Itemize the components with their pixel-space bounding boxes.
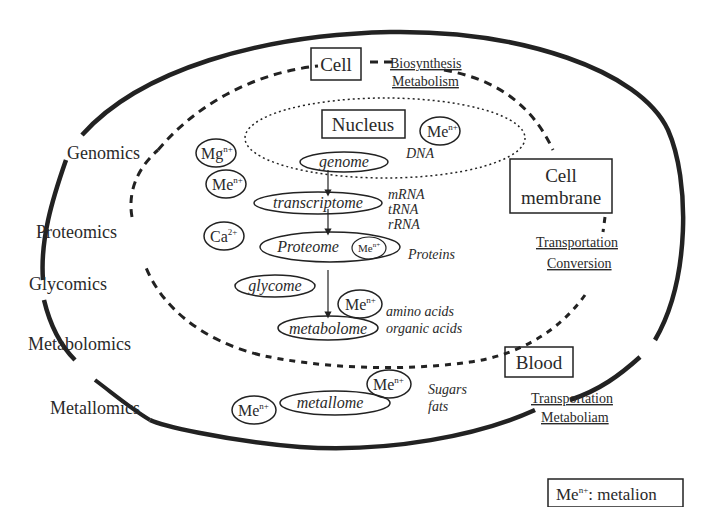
svg-text:Men+: Men+ [373, 375, 404, 393]
blood-function-transportation: Transportation [531, 391, 613, 406]
membrane-function-conversion: Conversion [547, 256, 612, 271]
svg-text:Ca2+: Ca2+ [210, 227, 237, 245]
membrane-function-transportation: Transportation [536, 235, 618, 250]
legend-ion-charge: n+ [579, 485, 589, 495]
sugar-fat-molecules: Sugars fats [428, 382, 467, 414]
ion-base: Me [427, 123, 448, 140]
label-glycomics: Glycomics [29, 274, 107, 294]
molecule-trna: tRNA [388, 202, 419, 217]
blood-box: Blood [505, 347, 573, 377]
ion-base: Me [373, 376, 394, 393]
molecule-proteins: Proteins [407, 247, 455, 262]
node-label: genome [319, 153, 369, 171]
molecule-sugars: Sugars [428, 382, 467, 397]
ion-base: Me [238, 402, 259, 419]
rna-molecules: mRNA tRNA rRNA [388, 187, 425, 232]
molecule-rrna: rRNA [388, 217, 420, 232]
cell-membrane-label-line1: Cell [545, 165, 577, 186]
legend-text: : metalion [588, 485, 657, 504]
cell-boundary [131, 62, 605, 368]
cell-membrane-label-line2: membrane [521, 187, 601, 208]
label-metabolomics: Metabolomics [28, 334, 131, 354]
ion-me-cytoplasm: Men+ [206, 170, 246, 198]
omics-labels: Genomics Proteomics Glycomics Metabolomi… [28, 143, 140, 418]
svg-text:Mgn+: Mgn+ [201, 144, 233, 163]
molecule-mrna: mRNA [388, 187, 425, 202]
ion-charge: n+ [223, 144, 233, 154]
svg-text:Men+: Men+ [345, 295, 376, 313]
nucleus-box: Nucleus [322, 110, 405, 138]
blood-function-metabolism: Metaboliam [541, 410, 609, 425]
legend-ion-base: Me [556, 485, 579, 504]
svg-text:Men+: metalion: Men+: metalion [556, 485, 657, 504]
node-metabolome: metabolome [278, 316, 378, 340]
label-proteomics: Proteomics [36, 222, 117, 242]
node-label: metallome [297, 394, 364, 411]
node-transcriptome: transcriptome [254, 192, 382, 214]
node-glycome: glycome [235, 275, 315, 297]
molecule-dna: DNA [405, 146, 434, 161]
nucleus-label: Nucleus [332, 114, 394, 135]
svg-text:Men+: Men+ [212, 175, 243, 193]
node-label: metabolome [289, 320, 367, 337]
molecule-organic-acids: organic acids [386, 321, 463, 336]
ion-base: Me [345, 296, 366, 313]
cell-membrane-functions: Transportation Conversion [536, 235, 618, 271]
metallomics-diagram: Cell Biosynthesis Metabolism Nucleus Men… [0, 0, 715, 507]
label-metallomics: Metallomics [50, 398, 140, 418]
ion-base: Me [212, 176, 233, 193]
cell-function-metabolism: Metabolism [392, 74, 459, 89]
legend: Men+: metalion [548, 479, 683, 507]
ion-charge: n+ [394, 375, 404, 385]
svg-text:Men+: Men+ [238, 401, 269, 419]
cell-function-biosynthesis: Biosynthesis [390, 56, 462, 71]
cell-membrane-box: Cell membrane [510, 159, 612, 213]
ion-charge: n+ [448, 122, 458, 132]
label-genomics: Genomics [67, 143, 140, 163]
cell-box: Cell [311, 48, 361, 80]
ion-me-metallome-right: Men+ [367, 370, 411, 398]
acid-molecules: amino acids organic acids [386, 304, 463, 336]
molecule-amino-acids: amino acids [386, 304, 455, 319]
blood-label: Blood [516, 352, 563, 373]
node-label: glycome [248, 277, 301, 295]
svg-text:Men+: Men+ [358, 241, 380, 254]
node-proteome: Proteome Men+ [260, 232, 400, 262]
ion-base: Mg [201, 145, 223, 163]
ion-charge: 2+ [228, 227, 238, 237]
node-genome: genome [300, 152, 388, 172]
ion-me-metabolome: Men+ [338, 290, 382, 318]
ion-charge: n+ [233, 175, 243, 185]
ion-me-metallome-left: Men+ [232, 396, 276, 424]
ion-charge: n+ [259, 401, 269, 411]
ion-base: Me [358, 242, 373, 254]
blood-functions: Transportation Metaboliam [531, 391, 613, 425]
cell-label: Cell [320, 54, 352, 75]
node-label: Proteome [276, 238, 339, 255]
svg-text:Men+: Men+ [427, 122, 458, 140]
ion-charge: n+ [366, 295, 376, 305]
node-label: transcriptome [273, 194, 363, 212]
ion-charge: n+ [373, 241, 381, 249]
molecule-fats: fats [428, 399, 449, 414]
nucleus-ion: Men+ [420, 117, 460, 145]
ion-ca: Ca2+ [204, 222, 244, 250]
ion-base: Ca [210, 228, 228, 245]
ion-mg: Mgn+ [196, 139, 236, 167]
